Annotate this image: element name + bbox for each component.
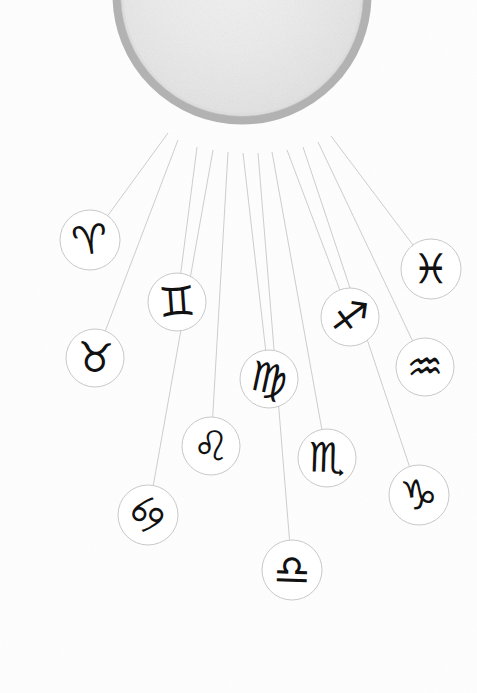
zodiac-mobile-illustration: ♈♉♊♋♌♍♎♏♐♑♒♓	[0, 0, 477, 693]
zodiac-medallion-pisces[interactable]: ♓	[401, 239, 461, 299]
zodiac-glyph-capricorn: ♑	[398, 469, 440, 521]
zodiac-medallion-aries[interactable]: ♈	[60, 210, 120, 270]
zodiac-medallion-scorpio[interactable]: ♏	[298, 429, 356, 487]
zodiac-medallion-sagittarius[interactable]: ♐	[321, 288, 379, 346]
zodiac-medallion-gemini[interactable]: ♊	[148, 273, 206, 331]
zodiac-glyph-sagittarius: ♐	[328, 291, 371, 344]
zodiac-glyph-leo: ♌	[191, 421, 230, 471]
zodiac-glyph-libra: ♎	[273, 545, 311, 594]
zodiac-glyph-scorpio: ♏	[308, 433, 346, 482]
zodiac-medallion-capricorn[interactable]: ♑	[389, 465, 449, 525]
poster-canvas: ♈♉♊♋♌♍♎♏♐♑♒♓ Aries Taurus Gemini Cancer …	[0, 0, 477, 693]
zodiac-glyph-aries: ♈	[69, 215, 111, 266]
zodiac-medallion-leo[interactable]: ♌	[182, 417, 240, 475]
zodiac-medallion-virgo[interactable]: ♍	[240, 350, 298, 408]
zodiac-medallion-cancer[interactable]: ♋	[118, 485, 178, 545]
zodiac-glyph-pisces: ♓	[413, 245, 450, 293]
zodiac-medallion-libra[interactable]: ♎	[262, 540, 322, 600]
zodiac-glyph-gemini: ♊	[157, 277, 197, 327]
zodiac-medallion-aquarius[interactable]: ♒	[396, 338, 454, 396]
sign-label-pisces: Pisces	[0, 0, 1, 1]
zodiac-glyph-taurus: ♉	[75, 333, 115, 383]
zodiac-medallion-taurus[interactable]: ♉	[66, 329, 124, 387]
zodiac-glyph-aquarius: ♒	[405, 342, 444, 392]
